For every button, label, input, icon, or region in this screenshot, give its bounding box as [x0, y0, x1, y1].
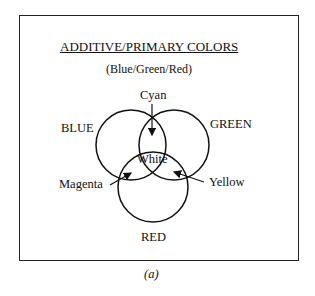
blue-circle	[96, 110, 166, 180]
green-circle	[139, 110, 209, 180]
cyan-label: Cyan	[140, 89, 166, 102]
venn-diagram	[0, 0, 315, 296]
magenta-label: Magenta	[59, 178, 103, 191]
yellow-arrow	[174, 172, 204, 182]
green-label: GREEN	[210, 118, 252, 131]
figure-caption: (a)	[144, 268, 159, 281]
white-label: White	[137, 153, 168, 166]
blue-label: BLUE	[61, 122, 94, 135]
red-label: RED	[141, 231, 166, 244]
yellow-label: Yellow	[209, 176, 245, 189]
